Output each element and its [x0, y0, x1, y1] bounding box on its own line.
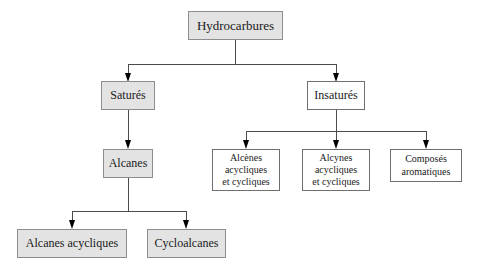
arrowhead-to-alcynes — [333, 140, 339, 149]
node-alcanes-label: Alcanes — [105, 156, 152, 171]
node-cycloalcanes: Cycloalcanes — [147, 229, 226, 258]
arrowhead-to-alcanes — [125, 140, 131, 149]
node-alcanes-acycliques-label: Alcanes acycliques — [22, 236, 122, 251]
node-alcynes: Alcynes acycliques et cycliques — [302, 149, 370, 191]
arrowhead-to-aromatiques — [423, 140, 429, 149]
node-cycloalcanes-label: Cycloalcanes — [151, 236, 223, 251]
connector-root-stem — [235, 40, 236, 64]
node-insatures: Insaturés — [307, 81, 365, 110]
node-insatures-label: Insaturés — [310, 88, 361, 103]
hydrocarbon-classification-diagram: Hydrocarbures Saturés Insaturés Alcanes … — [0, 0, 486, 278]
node-alcenes-label: Alcènes acycliques et cycliques — [218, 152, 273, 189]
connector-alcanes-stem — [128, 178, 129, 211]
node-composes-aromatiques: Composés aromatiques — [390, 149, 462, 182]
arrowhead-to-alcenes — [243, 140, 249, 149]
connector-insatures-stem — [336, 110, 337, 131]
node-satures-label: Saturés — [106, 88, 149, 103]
node-composes-aromatiques-label: Composés aromatiques — [398, 153, 455, 177]
node-hydrocarbures: Hydrocarbures — [188, 11, 283, 40]
node-alcynes-label: Alcynes acycliques et cycliques — [308, 152, 363, 189]
connector-alcanes-bar — [72, 211, 186, 212]
connector-satures-to-alcanes — [128, 110, 129, 143]
node-alcanes: Alcanes — [103, 149, 153, 178]
arrowhead-to-cycloalcanes — [183, 220, 189, 229]
arrowhead-to-alcanes-acycliques — [69, 220, 75, 229]
node-hydrocarbures-label: Hydrocarbures — [193, 18, 278, 34]
node-alcanes-acycliques: Alcanes acycliques — [17, 229, 127, 258]
node-alcenes: Alcènes acycliques et cycliques — [212, 149, 280, 191]
node-satures: Saturés — [101, 81, 155, 110]
connector-root-bar — [128, 64, 336, 65]
